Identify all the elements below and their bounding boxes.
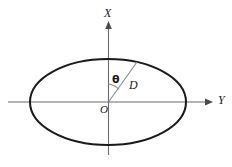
ellipse-diagram-figure: X Y θ D O: [0, 0, 232, 167]
origin-label: O: [100, 104, 108, 115]
x-axis-label: X: [104, 7, 111, 19]
y-axis-label: Y: [218, 94, 225, 106]
y-axis-arrowhead-icon: [205, 99, 213, 106]
x-axis-arrowhead-icon: [105, 21, 112, 29]
radius-vector-d-label: D: [129, 79, 138, 91]
theta-angle-label: θ: [112, 74, 120, 85]
